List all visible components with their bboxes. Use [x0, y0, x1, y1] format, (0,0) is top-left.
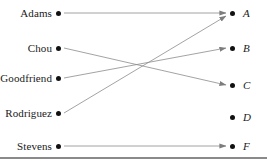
codomain-dot-b[interactable]: [230, 46, 235, 51]
mapping-arrow-chou-to-C: [64, 48, 226, 85]
codomain-dot-f[interactable]: [230, 144, 235, 149]
codomain-label-d: D: [243, 111, 251, 123]
mapping-arrow-goodfriend-to-B: [64, 48, 226, 78]
domain-label-adams: Adams: [20, 7, 52, 19]
domain-dot-goodfriend[interactable]: [56, 76, 61, 81]
codomain-dot-a[interactable]: [230, 11, 235, 16]
codomain-dot-c[interactable]: [230, 83, 235, 88]
domain-dot-chou[interactable]: [56, 46, 61, 51]
domain-label-stevens: Stevens: [17, 140, 52, 152]
domain-dot-stevens[interactable]: [56, 144, 61, 149]
domain-dot-adams[interactable]: [56, 11, 61, 16]
domain-label-goodfriend: Goodfriend: [0, 72, 52, 84]
codomain-dot-d[interactable]: [230, 115, 235, 120]
codomain-label-b: B: [243, 42, 250, 54]
codomain-label-a: A: [243, 7, 250, 19]
domain-label-chou: Chou: [28, 42, 52, 54]
mapping-arrow-rodriguez-to-A: [64, 16, 226, 113]
codomain-label-f: F: [243, 140, 250, 152]
domain-label-rodriguez: Rodriguez: [5, 107, 52, 119]
codomain-label-c: C: [243, 79, 250, 91]
bottom-rule: [0, 157, 267, 159]
domain-dot-rodriguez[interactable]: [56, 111, 61, 116]
mapping-arrows: [64, 13, 226, 146]
function-diagram: Adams Chou Goodfriend Rodriguez Stevens …: [0, 0, 267, 162]
